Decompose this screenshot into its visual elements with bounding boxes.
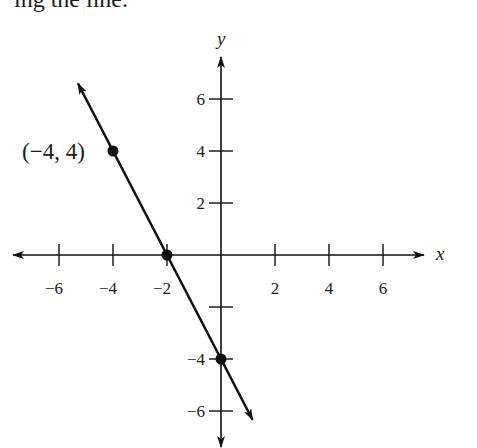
x-tick-label: 6 (379, 279, 388, 298)
x-tick-label: −4 (99, 279, 118, 298)
y-axis-label: y (215, 28, 226, 49)
y-tick-label: 2 (197, 194, 206, 213)
data-point (108, 146, 119, 157)
y-tick-label: −6 (187, 402, 205, 421)
coordinate-plane: −6−4−2246642−4−6 (−4, 4) x y (0, 0, 477, 448)
x-axis-label: x (435, 243, 445, 264)
y-tick-label: 6 (197, 90, 206, 109)
y-tick-label: 4 (197, 142, 206, 161)
x-tick-label: −6 (45, 279, 63, 298)
point-label: (−4, 4) (22, 139, 85, 164)
y-tick-label: −4 (187, 350, 206, 369)
x-tick-label: 2 (271, 279, 280, 298)
data-point (162, 250, 173, 261)
axes (13, 57, 424, 447)
x-tick-label: −2 (153, 279, 171, 298)
data-point (216, 354, 227, 365)
x-tick-label: 4 (325, 279, 334, 298)
